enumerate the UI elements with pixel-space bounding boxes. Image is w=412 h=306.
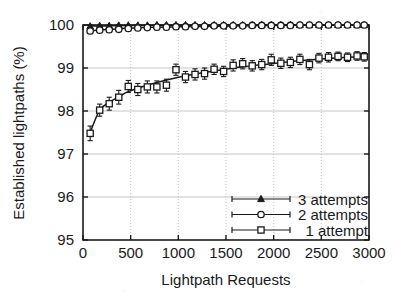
x-axis-title: Lightpath Requests [161, 271, 290, 288]
square-marker [259, 61, 265, 67]
square-marker [221, 68, 227, 74]
square-marker [297, 56, 303, 62]
square-marker [240, 61, 246, 67]
circle-marker [154, 24, 160, 30]
y-tick-label: 99 [57, 59, 74, 76]
square-marker [278, 60, 284, 66]
square-marker [335, 53, 341, 59]
circle-marker [335, 22, 341, 28]
square-marker [201, 70, 207, 76]
x-tick-label: 500 [118, 244, 143, 261]
square-marker [249, 63, 255, 69]
circle-marker [182, 24, 188, 30]
square-marker [192, 71, 198, 77]
x-tick-label: 2000 [257, 244, 290, 261]
circle-marker [297, 22, 303, 28]
square-marker [316, 55, 322, 61]
circle-marker [106, 27, 112, 33]
x-tick-label: 2500 [305, 244, 338, 261]
circle-marker [239, 23, 245, 29]
square-marker [344, 54, 350, 60]
square-marker [125, 83, 131, 89]
circle-marker [163, 24, 169, 30]
circle-marker [249, 22, 255, 28]
square-marker [116, 94, 122, 100]
circle-marker [259, 22, 265, 28]
y-tick-label: 100 [49, 16, 74, 33]
circle-marker [268, 22, 274, 28]
circle-marker [344, 22, 350, 28]
square-marker [306, 61, 312, 67]
square-marker [211, 66, 217, 72]
circle-marker [211, 23, 217, 29]
square-marker [230, 62, 236, 68]
circle-marker [306, 22, 312, 28]
square-marker [87, 130, 93, 136]
square-marker [144, 84, 150, 90]
circle-marker [116, 26, 122, 32]
circle-marker [87, 28, 93, 34]
x-tick-label: 0 [79, 244, 87, 261]
lightpath-establishment-chart: 050010001500200025003000 9596979899100 E… [0, 0, 412, 306]
y-tick-label: 98 [57, 102, 74, 119]
x-tick-label: 1500 [209, 244, 242, 261]
square-marker [287, 59, 293, 65]
circle-marker [173, 24, 179, 30]
square-marker [361, 54, 367, 60]
circle-marker [361, 22, 367, 28]
circle-marker [325, 22, 331, 28]
square-marker [354, 53, 360, 59]
square-marker [173, 67, 179, 73]
square-marker [154, 84, 160, 90]
circle-marker [96, 27, 102, 33]
square-marker [325, 54, 331, 60]
chart-figure: 050010001500200025003000 9596979899100 E… [0, 0, 412, 306]
circle-marker [125, 25, 131, 31]
y-axis-title: Established lightpaths (%) [10, 46, 27, 219]
circle-marker [230, 23, 236, 29]
legend-label: 3 attempts [298, 191, 368, 208]
circle-marker [144, 24, 150, 30]
square-marker [182, 74, 188, 80]
circle-marker [192, 23, 198, 29]
y-tick-label: 96 [57, 188, 74, 205]
square-marker [106, 101, 112, 107]
circle-marker [278, 22, 284, 28]
circle-marker [201, 23, 207, 29]
square-marker [258, 227, 264, 233]
circle-marker [135, 25, 141, 31]
circle-marker [287, 22, 293, 28]
y-tick-label: 95 [57, 231, 74, 248]
square-marker [97, 107, 103, 113]
square-marker [268, 57, 274, 63]
circle-marker [316, 22, 322, 28]
circle-marker [220, 23, 226, 29]
x-tick-label: 3000 [352, 244, 385, 261]
legend-label: 2 attempts [298, 206, 368, 223]
square-marker [163, 82, 169, 88]
circle-marker [354, 22, 360, 28]
y-tick-label: 97 [57, 145, 74, 162]
circle-marker [258, 211, 264, 217]
square-marker [135, 86, 141, 92]
x-tick-label: 1000 [162, 244, 195, 261]
legend-label: 1 attempt [305, 222, 368, 239]
